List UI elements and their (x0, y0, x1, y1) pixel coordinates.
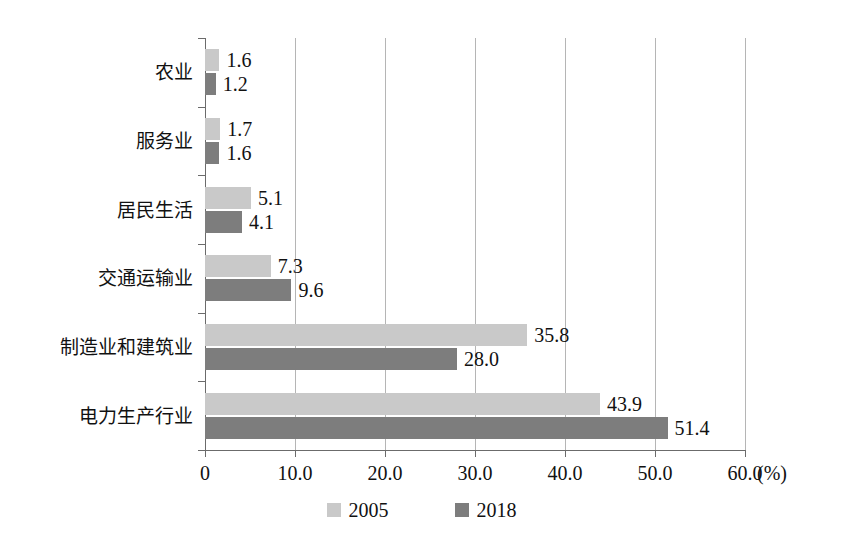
bar-value-label: 1.7 (227, 119, 252, 139)
x-axis-tick (385, 450, 386, 457)
bar-2018-居民生活 (205, 211, 242, 233)
x-axis-tick (745, 450, 746, 457)
gridline (745, 38, 746, 450)
bar-value-label: 7.3 (278, 256, 303, 276)
bar-2018-交通运输业 (205, 279, 291, 301)
x-axis-tick (655, 450, 656, 457)
bar-value-label: 9.6 (298, 280, 323, 300)
chart-legend: 20052018 (0, 500, 843, 520)
legend-swatch-icon (327, 503, 341, 517)
x-axis-tick (295, 450, 296, 457)
bar-2005-农业 (205, 49, 219, 71)
category-label: 农业 (33, 61, 193, 83)
x-axis-tick-label: 0 (200, 462, 210, 484)
legend-label: 2005 (349, 500, 389, 520)
bar-2005-电力生产行业 (205, 393, 600, 415)
bar-value-label: 4.1 (249, 212, 274, 232)
x-axis-tick (205, 450, 206, 457)
x-axis-tick (565, 450, 566, 457)
category-label: 居民生活 (33, 199, 193, 221)
x-axis-tick-label: 40.0 (548, 462, 583, 484)
bar-value-label: 1.6 (226, 143, 251, 163)
bar-2018-农业 (205, 73, 216, 95)
bar-value-label: 5.1 (258, 188, 283, 208)
legend-swatch-icon (455, 503, 469, 517)
chart-container: 农业服务业居民生活交通运输业制造业和建筑业电力生产行业 1.61.21.71.6… (0, 0, 843, 557)
category-label: 电力生产行业 (33, 405, 193, 427)
bar-2005-居民生活 (205, 187, 251, 209)
legend-item-2018[interactable]: 2018 (455, 500, 517, 520)
category-label: 制造业和建筑业 (33, 336, 193, 358)
category-axis-labels: 农业服务业居民生活交通运输业制造业和建筑业电力生产行业 (25, 38, 193, 450)
x-axis-tick-label: 10.0 (278, 462, 313, 484)
bar-2018-服务业 (205, 142, 219, 164)
legend-item-2005[interactable]: 2005 (327, 500, 389, 520)
plot-area: 1.61.21.71.65.14.17.39.635.828.043.951.4 (205, 38, 745, 450)
category-label: 交通运输业 (33, 267, 193, 289)
bar-value-label: 35.8 (534, 325, 569, 345)
bar-2005-服务业 (205, 118, 220, 140)
category-label: 服务业 (33, 130, 193, 152)
x-axis-tick-label: 50.0 (638, 462, 673, 484)
bar-2018-制造业和建筑业 (205, 348, 457, 370)
bar-2018-电力生产行业 (205, 417, 668, 439)
x-axis-tick (475, 450, 476, 457)
bar-value-label: 51.4 (675, 418, 710, 438)
bar-2005-交通运输业 (205, 255, 271, 277)
bar-value-label: 1.2 (223, 74, 248, 94)
bar-value-label: 1.6 (226, 50, 251, 70)
x-axis-unit-label: (%) (757, 462, 787, 484)
x-axis-tick-label: 30.0 (458, 462, 493, 484)
x-axis-tick-label: 20.0 (368, 462, 403, 484)
bar-2005-制造业和建筑业 (205, 324, 527, 346)
bar-value-label: 43.9 (607, 394, 642, 414)
legend-label: 2018 (477, 500, 517, 520)
bar-value-label: 28.0 (464, 349, 499, 369)
